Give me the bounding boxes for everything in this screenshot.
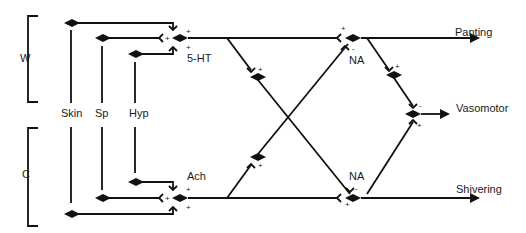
input-label-skin: Skin bbox=[61, 107, 82, 119]
transmitter-label-na-bottom: NA bbox=[349, 170, 365, 182]
output-label-panting: Panting bbox=[455, 26, 492, 38]
hyp-soma-bottom bbox=[128, 178, 144, 186]
synapse-fork bbox=[159, 34, 163, 42]
sign-plus: + bbox=[258, 161, 263, 170]
vasomotor-interneuron-axon bbox=[394, 78, 413, 106]
transmitter-label-ach: Ach bbox=[187, 170, 206, 182]
sign-plus: + bbox=[186, 43, 191, 52]
sign-plus: + bbox=[165, 34, 170, 43]
group-label-w: W bbox=[20, 52, 31, 64]
sp-soma-top bbox=[95, 34, 111, 42]
arrow-vasomotor bbox=[440, 109, 450, 119]
output-label-vasomotor: Vasomotor bbox=[456, 102, 509, 114]
transmitter-label-5ht: 5-HT bbox=[187, 52, 212, 64]
5ht-branch bbox=[227, 38, 251, 70]
interneuron-soma-bottom bbox=[250, 153, 266, 161]
output-label-shivering: Shivering bbox=[456, 183, 502, 195]
na-top-branch bbox=[367, 38, 389, 70]
sign-minus: - bbox=[419, 101, 422, 110]
group-label-c: C bbox=[22, 168, 30, 180]
input-label-hyp: Hyp bbox=[129, 107, 149, 119]
hyp-soma-top bbox=[128, 50, 144, 58]
interneuron-axon-up bbox=[258, 44, 348, 154]
input-label-sp: Sp bbox=[95, 107, 108, 119]
na-bottom-branch bbox=[367, 122, 413, 194]
sign-plus: + bbox=[345, 200, 350, 209]
vasomotor-interneuron-soma bbox=[386, 71, 402, 79]
transmitter-label-na-top: NA bbox=[349, 54, 365, 66]
ach-soma bbox=[172, 194, 188, 202]
sign-plus: + bbox=[165, 194, 170, 203]
skin-soma-top bbox=[64, 19, 80, 27]
sign-plus: + bbox=[341, 24, 346, 33]
na-top-soma bbox=[345, 34, 361, 42]
thermoregulation-diagram: W C Skin Sp Hyp + + + 5-HT + - + NA - Pa… bbox=[0, 0, 526, 233]
sign-plus: + bbox=[186, 185, 191, 194]
vasomotor-soma bbox=[405, 110, 421, 118]
synapse-fork bbox=[337, 34, 341, 42]
synapse-fork bbox=[337, 194, 341, 202]
sign-plus: + bbox=[417, 121, 422, 130]
interneuron-soma-top bbox=[250, 73, 266, 81]
sign-minus: - bbox=[352, 44, 355, 53]
sp-soma-bottom bbox=[95, 194, 111, 202]
sign-plus: + bbox=[186, 27, 191, 36]
synapse-fork bbox=[159, 194, 163, 202]
sign-plus: + bbox=[258, 65, 263, 74]
skin-axon-bottom bbox=[72, 207, 173, 214]
sign-minus: - bbox=[355, 184, 358, 193]
skin-soma-bottom bbox=[64, 210, 80, 218]
sign-plus: + bbox=[186, 203, 191, 212]
sign-plus: + bbox=[395, 62, 400, 71]
ach-branch bbox=[227, 165, 251, 198]
skin-axon-top bbox=[72, 23, 173, 30]
